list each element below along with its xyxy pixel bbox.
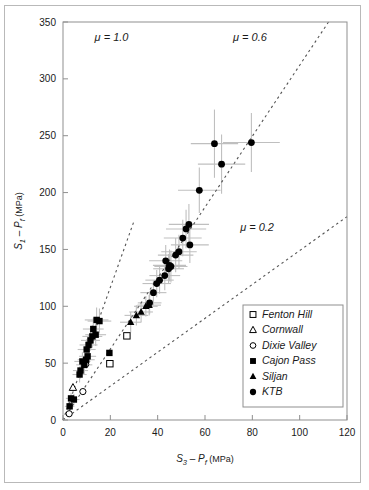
legend-item-label: Fenton Hill	[262, 308, 313, 320]
series-cajon-pass	[66, 317, 112, 410]
series-cornwall	[69, 384, 76, 391]
mu-0p2-label: μ = 0.2	[239, 221, 274, 233]
mu-0p6-label: μ = 0.6	[232, 31, 268, 43]
legend-item-label: KTB	[262, 385, 282, 397]
legend: Fenton HillCornwallDixie ValleyCajon Pas…	[243, 305, 343, 407]
annotations-layer: μ = 1.0μ = 0.6μ = 0.2	[94, 31, 274, 233]
y-tick-label: 0	[50, 415, 56, 426]
stress-scatter-chart: 020406080100120050100150200250300350 S3 …	[0, 0, 369, 490]
y-tick-label: 250	[39, 130, 56, 141]
x-tick-label: 0	[60, 427, 66, 438]
legend-item-label: Cajon Pass	[262, 354, 316, 366]
data-points-layer	[66, 139, 255, 417]
x-axis-title: S3 – Pf (MPa)	[176, 453, 234, 467]
y-tick-label: 200	[39, 187, 56, 198]
axis-labels-layer: S3 – Pf (MPa)S1 – Pf (MPa)	[13, 192, 234, 466]
x-tick-label: 120	[339, 427, 356, 438]
x-tick-label: 20	[105, 427, 117, 438]
legend-item-label: Siljan	[262, 370, 288, 382]
y-tick-label: 350	[39, 17, 56, 28]
x-tick-label: 60	[199, 427, 211, 438]
mu-1p0-label: μ = 1.0	[94, 31, 130, 43]
y-tick-label: 100	[39, 301, 56, 312]
y-tick-label: 50	[45, 358, 57, 369]
y-tick-label: 150	[39, 244, 56, 255]
x-tick-label: 100	[291, 427, 308, 438]
y-tick-label: 300	[39, 73, 56, 84]
legend-item-label: Dixie Valley	[262, 339, 317, 351]
y-axis-title: S1 – Pf (MPa)	[13, 192, 27, 250]
legend-item-label: Cornwall	[262, 323, 304, 335]
x-tick-label: 80	[247, 427, 259, 438]
x-tick-label: 40	[152, 427, 164, 438]
